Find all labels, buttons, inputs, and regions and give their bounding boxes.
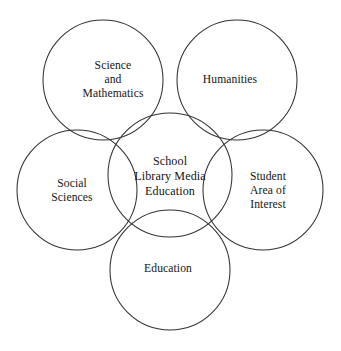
venn-circle-school-library-media-education [108, 113, 232, 237]
venn-circle-layer [17, 20, 323, 330]
venn-diagram-canvas [0, 0, 341, 351]
venn-diagram: Science and MathematicsHumanitiesSocial … [0, 0, 341, 351]
